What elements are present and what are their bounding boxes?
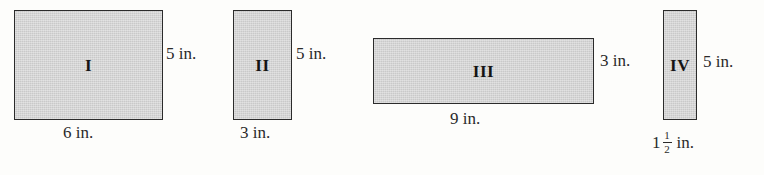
rectangle-1-label: I xyxy=(85,57,92,74)
rectangle-3: III xyxy=(373,38,594,104)
mixed-number-unit: in. xyxy=(677,134,694,151)
rectangle-1: I xyxy=(14,10,163,120)
rectangle-2-width-label: 3 in. xyxy=(240,124,270,141)
rectangle-4-height-label: 5 in. xyxy=(703,53,733,70)
rectangle-3-height-label: 3 in. xyxy=(600,52,630,69)
fraction-numerator: 1 xyxy=(664,130,670,142)
rectangle-2: II xyxy=(233,10,292,120)
rectangle-2-label: II xyxy=(255,57,269,74)
rectangle-4-width-label: 1 1 2 in. xyxy=(652,130,694,155)
rectangle-1-width-label: 6 in. xyxy=(63,124,93,141)
fraction: 1 2 xyxy=(663,130,672,155)
rectangles-figure: I 5 in. 6 in. II 5 in. 3 in. III 3 in. 9… xyxy=(0,0,764,175)
rectangle-3-label: III xyxy=(473,63,495,80)
mixed-number-whole: 1 xyxy=(652,134,661,151)
rectangle-4: IV xyxy=(663,10,697,120)
rectangle-4-label: IV xyxy=(670,57,690,74)
fraction-denominator: 2 xyxy=(664,143,670,155)
rectangle-3-width-label: 9 in. xyxy=(450,110,480,127)
rectangle-2-height-label: 5 in. xyxy=(296,45,326,62)
rectangle-1-height-label: 5 in. xyxy=(166,45,196,62)
